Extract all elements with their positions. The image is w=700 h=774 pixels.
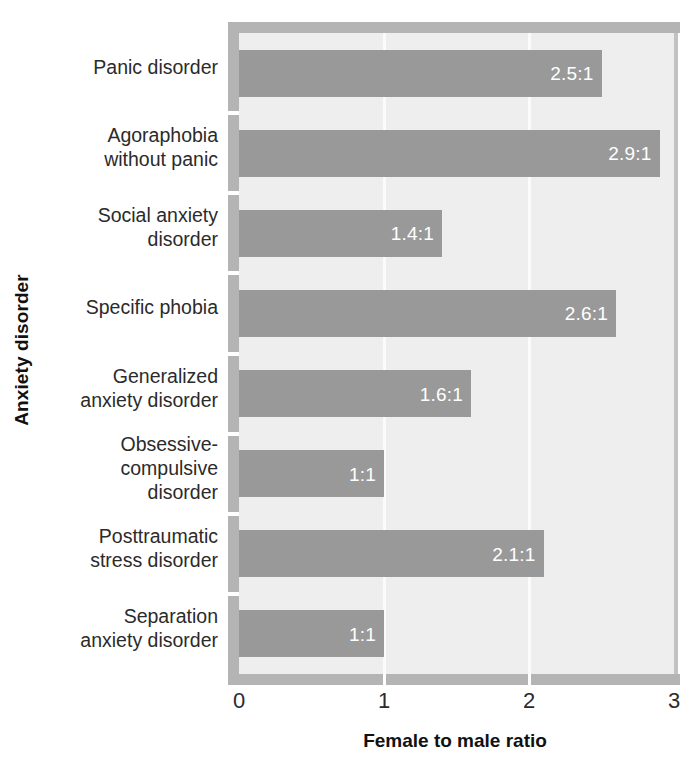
y-axis-title: Anxiety disorder — [0, 0, 44, 700]
bar: 2.5:1 — [239, 50, 602, 97]
bar-row: 1.4:1 — [239, 210, 674, 257]
y-axis-tick-gap — [228, 512, 239, 516]
y-axis-tick-gap — [228, 592, 239, 596]
x-axis-tick-gap — [528, 674, 531, 685]
y-axis-category-label: Panic disorder — [44, 55, 218, 79]
bar-value-label: 2.9:1 — [608, 144, 651, 163]
bar-chart: Anxiety disorder Panic disorderAgoraphob… — [0, 0, 700, 774]
y-axis-tick-gap — [228, 271, 239, 275]
bar-row: 1:1 — [239, 450, 674, 497]
bar-row: 1:1 — [239, 610, 674, 657]
plot-right-border — [674, 33, 678, 674]
y-axis-spine — [228, 33, 239, 674]
y-axis-category-label: Specific phobia — [44, 295, 218, 319]
x-axis-tick-label: 1 — [364, 688, 404, 714]
bar: 1:1 — [239, 450, 384, 497]
bar-value-label: 2.5:1 — [550, 64, 593, 83]
y-axis-category-labels: Panic disorderAgoraphobia without panicS… — [44, 27, 226, 681]
y-axis-category-label: Posttraumatic stress disorder — [44, 524, 218, 572]
y-axis-category-label: Obsessive- compulsive disorder — [44, 432, 218, 504]
bar: 1.4:1 — [239, 210, 442, 257]
y-axis-title-text: Anxiety disorder — [11, 274, 33, 426]
bar: 2.9:1 — [239, 130, 660, 177]
x-axis-spine — [228, 674, 680, 685]
bar-value-label: 1:1 — [349, 624, 376, 643]
plot-area: 2.5:12.9:11.4:12.6:11.6:11:12.1:11:1 — [239, 33, 674, 674]
bar-value-label: 2.1:1 — [492, 544, 535, 563]
bar-value-label: 1.6:1 — [420, 384, 463, 403]
y-axis-category-label: Separation anxiety disorder — [44, 604, 218, 652]
bar-row: 2.6:1 — [239, 290, 674, 337]
x-axis-tick-label: 2 — [509, 688, 549, 714]
x-axis-tick-label: 0 — [219, 688, 259, 714]
x-axis-tick-label: 3 — [654, 688, 694, 714]
bar: 1.6:1 — [239, 370, 471, 417]
bar: 2.6:1 — [239, 290, 616, 337]
bar: 2.1:1 — [239, 530, 544, 577]
y-axis-tick-gap — [228, 111, 239, 115]
bar-row: 2.1:1 — [239, 530, 674, 577]
y-axis-category-label: Generalized anxiety disorder — [44, 364, 218, 412]
bar-value-label: 1:1 — [349, 464, 376, 483]
bar-row: 2.9:1 — [239, 130, 674, 177]
y-axis-category-label: Social anxiety disorder — [44, 203, 218, 251]
x-axis-tick-labels: 0123 — [226, 688, 684, 720]
bar-value-label: 2.6:1 — [565, 304, 608, 323]
y-axis-tick-gap — [228, 352, 239, 356]
bar-row: 2.5:1 — [239, 50, 674, 97]
bar-row: 1.6:1 — [239, 370, 674, 417]
x-axis-title: Female to male ratio — [226, 730, 684, 752]
x-axis-tick-gap — [383, 674, 386, 685]
plot-frame: 2.5:12.9:11.4:12.6:11.6:11:12.1:11:1 — [226, 22, 684, 685]
bar-value-label: 1.4:1 — [391, 224, 434, 243]
y-axis-tick-gap — [228, 191, 239, 195]
y-axis-category-label: Agoraphobia without panic — [44, 123, 218, 171]
y-axis-tick-gap — [228, 432, 239, 436]
plot-top-rule — [228, 22, 680, 33]
bar: 1:1 — [239, 610, 384, 657]
